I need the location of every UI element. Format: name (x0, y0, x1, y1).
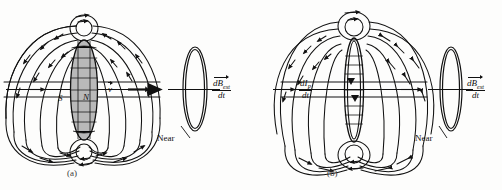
panel-a-caption: (a) (67, 169, 77, 178)
panel-b: dIP dt dBext dt Near (b) (251, 0, 502, 190)
panel-b-drawing (251, 0, 502, 190)
dip-dt-label-b: dIP dt (299, 79, 312, 100)
dbext-denominator: dt (466, 90, 485, 100)
dbext-subscript: ext (477, 84, 484, 90)
bar-magnet-a (70, 40, 97, 140)
dbext-denominator: dt (212, 90, 231, 100)
dbext-dt-label-a: dBext dt (212, 79, 231, 100)
dbext-subscript: ext (223, 84, 230, 90)
current-loop-b (345, 38, 364, 142)
pole-label-south-a: S (58, 94, 63, 103)
dip-denominator: dt (299, 90, 312, 100)
panel-b-caption: (b) (327, 169, 338, 178)
dip-numerator: dI (300, 78, 308, 88)
near-label-a: Near (157, 134, 175, 143)
dip-subscript: P (308, 84, 312, 90)
physics-figure: S N v dBext dt (0, 0, 502, 190)
dbext-numerator: dB (467, 78, 477, 88)
velocity-label-a: v (107, 80, 113, 96)
near-label-b: Near (415, 134, 433, 143)
panel-a: S N v dBext dt (0, 0, 251, 190)
dbext-numerator: dB (213, 78, 223, 88)
velocity-symbol: v (108, 84, 112, 94)
pole-label-north-a: N (83, 93, 89, 102)
dbext-dt-label-b: dBext dt (466, 79, 485, 100)
